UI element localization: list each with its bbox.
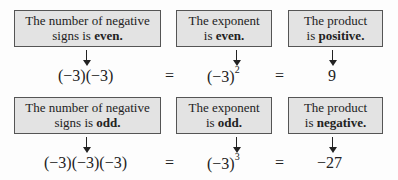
- exponent-even-box: The exponent is even.: [176, 10, 272, 47]
- box-line1: The number of negative: [15, 100, 160, 115]
- box-line1: The product: [289, 13, 382, 28]
- equals-sign: =: [275, 67, 284, 85]
- box-line2: is negative.: [289, 115, 382, 130]
- down-arrow-icon: [82, 50, 92, 66]
- equals-sign: =: [165, 154, 174, 172]
- box-line1: The product: [289, 100, 382, 115]
- box-line2: is odd.: [177, 115, 271, 130]
- product-expression: (−3)(−3)(−3): [44, 154, 127, 172]
- power-expression: (−3)2: [207, 67, 240, 86]
- result-value: −27: [317, 154, 342, 172]
- equals-sign: =: [275, 154, 284, 172]
- product-negative-box: The product is negative.: [288, 97, 383, 134]
- equals-sign: =: [165, 67, 174, 85]
- box-line1: The exponent: [177, 100, 271, 115]
- result-value: 9: [328, 67, 336, 85]
- down-arrow-icon: [328, 50, 338, 66]
- box-line2: signs is even.: [15, 28, 160, 43]
- box-line2: is even.: [177, 28, 271, 43]
- power-expression: (−3)3: [207, 154, 240, 173]
- exponent-odd-box: The exponent is odd.: [176, 97, 272, 134]
- negative-signs-even-box: The number of negative signs is even.: [14, 10, 161, 47]
- box-line2: signs is odd.: [15, 115, 160, 130]
- product-positive-box: The product is positive.: [288, 10, 383, 47]
- negative-signs-odd-box: The number of negative signs is odd.: [14, 97, 161, 134]
- box-line2: is positive.: [289, 28, 382, 43]
- down-arrow-icon: [82, 137, 92, 153]
- box-line1: The exponent: [177, 13, 271, 28]
- down-arrow-icon: [328, 137, 338, 153]
- box-line1: The number of negative: [15, 13, 160, 28]
- product-expression: (−3)(−3): [58, 67, 113, 85]
